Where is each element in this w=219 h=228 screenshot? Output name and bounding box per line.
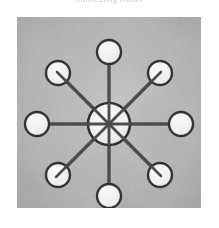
figure-caption-text: connecting model	[0, 0, 219, 5]
network-topology-diagram	[17, 17, 201, 208]
node-se	[148, 163, 172, 187]
node-e	[169, 112, 193, 136]
figure-root: connecting model	[0, 0, 219, 228]
node-ne	[148, 61, 172, 85]
node-nw	[46, 61, 70, 85]
node-n	[97, 40, 121, 64]
hub-node	[88, 103, 130, 145]
node-w	[25, 112, 49, 136]
node-s	[97, 184, 121, 208]
scanned-photo-plate	[17, 17, 201, 208]
node-sw	[46, 163, 70, 187]
figure-caption-strip: connecting model	[0, 0, 219, 8]
